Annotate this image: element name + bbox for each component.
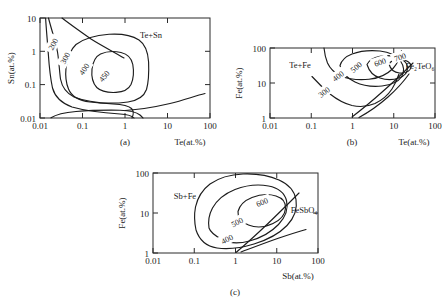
panel-b-x-ticks (270, 48, 435, 118)
x-tick-4-c: 100 (311, 256, 325, 266)
y-tick-1: 1 (32, 47, 37, 57)
y-tick-2-b: 1 (262, 114, 267, 124)
x-axis-title-c: Sb(at.%) (282, 271, 314, 281)
region-label-b: Te+Fe (289, 60, 311, 70)
chart-panel-b: 300 400 500 600 700 T (228, 0, 447, 158)
figure-container: 200 300 400 450 Te+Sn 0.01 (0, 0, 447, 300)
region-label-a: Te+Sn (140, 30, 163, 40)
panel-a-svg: 200 300 400 450 Te+Sn 0.01 (0, 0, 230, 158)
panel-letter-b: (b) (347, 137, 358, 147)
panel-a-contour-labels: 200 300 400 450 (44, 33, 114, 86)
x-tick-1: 0.1 (77, 121, 88, 131)
phase-label-c: FeSbO₄ (291, 205, 318, 215)
y-tick-2-c: 1 (145, 249, 150, 259)
y-tick-1-c: 10 (140, 209, 150, 219)
x-tick-1-c: 0.1 (189, 256, 200, 266)
panel-b-frame (270, 48, 435, 118)
y-tick-0: 10 (27, 14, 37, 24)
x-tick-2-b: 1 (350, 121, 355, 131)
panel-b-plot-area (270, 48, 435, 118)
panel-b-x-tick-labels: 0.01 0.1 1 10 100 (262, 121, 442, 131)
x-tick-3-c: 10 (272, 256, 282, 266)
x-tick-1-b: 0.1 (306, 121, 317, 131)
y-tick-0-c: 100 (136, 169, 150, 179)
x-axis-title-b: Te(at.%) (398, 137, 429, 147)
y-tick-2: 0.1 (25, 80, 36, 90)
panel-c-svg: 400 500 600 Sb+Fe FeSbO₄ 0.01 0.1 1 10 1… (105, 155, 355, 300)
right-boundary (125, 94, 205, 111)
y-tick-0-b: 100 (253, 44, 267, 54)
panel-b-contour-labels: 300 400 500 600 700 (314, 49, 410, 102)
x-tick-3: 10 (163, 121, 173, 131)
right-branch-b (359, 74, 409, 118)
panel-a-y-tick-labels: 10 1 0.1 0.01 (20, 14, 36, 124)
y-axis-title-c: Fe(at.%) (117, 197, 127, 228)
chart-panel-c: 400 500 600 Sb+Fe FeSbO₄ 0.01 0.1 1 10 1… (105, 155, 355, 300)
region-label-c: Sb+Fe (174, 191, 196, 201)
y-axis-title-b: Fe(at.%) (234, 67, 244, 98)
phase-label-b: Fe₂TeO₆ (406, 61, 435, 71)
x-tick-4-b: 100 (428, 121, 442, 131)
x-tick-4: 100 (203, 121, 217, 131)
panel-a-x-tick-labels: 0.01 0.1 1 10 100 (32, 121, 217, 131)
panel-letter-a: (a) (120, 137, 130, 147)
x-tick-2: 1 (123, 121, 128, 131)
y-tick-1-b: 10 (257, 79, 267, 89)
panel-b-y-tick-labels: 100 10 1 (253, 44, 267, 124)
panel-c-x-tick-labels: 0.01 0.1 1 10 100 (145, 256, 325, 266)
panel-c-y-tick-labels: 100 10 1 (136, 169, 150, 259)
panel-b-svg: 300 400 500 600 700 T (228, 0, 447, 158)
x-tick-2-c: 1 (233, 256, 238, 266)
panel-b-y-ticks (270, 48, 435, 118)
x-axis-title-a: Te(at.%) (174, 137, 205, 147)
y-tick-3: 0.01 (20, 114, 36, 124)
panel-letter-c: (c) (230, 287, 240, 297)
y-axis-title-a: Sn(at.%) (6, 52, 16, 84)
chart-panel-a: 200 300 400 450 Te+Sn 0.01 (0, 0, 230, 158)
x-tick-3-b: 10 (389, 121, 399, 131)
